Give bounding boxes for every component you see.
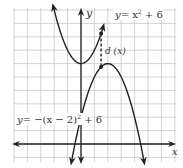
x-axis-label: x: [172, 146, 178, 157]
coordinate-plane: y x y= x2 + 6 d (x) y= −(x − 2)2 + 6: [0, 0, 183, 168]
graph-figure: y x y= x2 + 6 d (x) y= −(x − 2)2 + 6: [0, 0, 183, 168]
distance-label: d (x): [105, 46, 126, 56]
lower-equation-label: y= −(x − 2)2 + 6: [16, 113, 102, 125]
upper-parabola-curve: [54, 7, 104, 63]
y-axis-label: y: [85, 7, 93, 20]
lower-point: [99, 65, 103, 69]
grid-lines: [14, 8, 176, 162]
upper-point: [99, 31, 103, 35]
